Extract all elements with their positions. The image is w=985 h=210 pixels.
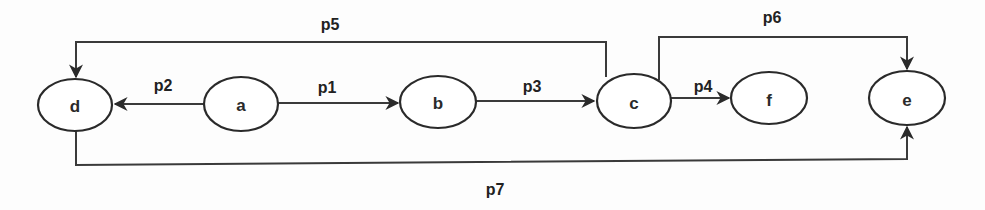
edge-p2-label: p2 xyxy=(154,77,173,94)
edge-p4: p4 xyxy=(671,78,729,98)
edge-p1: p1 xyxy=(278,79,398,103)
node-d: d xyxy=(38,79,112,131)
node-c-label: c xyxy=(629,94,638,113)
edge-p7-label: p7 xyxy=(486,181,505,198)
node-b-label: b xyxy=(433,94,443,113)
flow-diagram: p2 p1 p3 p4 p5 p6 p7 d a b xyxy=(0,0,985,210)
edge-p5-line xyxy=(76,42,606,77)
edge-p1-label: p1 xyxy=(318,79,337,96)
node-e-label: e xyxy=(902,91,911,110)
edge-p6: p6 xyxy=(659,9,907,80)
edge-p7-line xyxy=(76,127,907,165)
node-a: a xyxy=(204,77,278,131)
node-a-label: a xyxy=(236,96,246,115)
edge-p3-label: p3 xyxy=(523,78,542,95)
node-f: f xyxy=(731,72,807,124)
node-f-label: f xyxy=(766,91,772,110)
node-c: c xyxy=(597,74,671,128)
node-e: e xyxy=(869,71,945,125)
edge-p7: p7 xyxy=(76,127,907,198)
edge-p6-label: p6 xyxy=(763,9,782,26)
edge-p5: p5 xyxy=(76,16,606,77)
edge-p5-label: p5 xyxy=(321,16,340,33)
node-b: b xyxy=(400,76,476,128)
edge-p3: p3 xyxy=(476,78,594,101)
edge-p4-label: p4 xyxy=(694,78,713,95)
edge-p2: p2 xyxy=(115,77,204,104)
node-d-label: d xyxy=(70,97,80,116)
